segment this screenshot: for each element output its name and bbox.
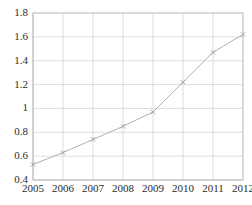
x-tick-label: 2005 [16, 183, 50, 194]
chart-axes [33, 13, 243, 180]
x-tick-label: 2011 [196, 183, 230, 194]
x-tick-label: 2007 [76, 183, 110, 194]
horizontal-gridlines [33, 13, 243, 180]
y-tick-label: 0.6 [0, 150, 28, 161]
line-chart: 1.81.61.41.210.80.60.4 20052006200720082… [0, 0, 252, 205]
y-tick-label: 1.2 [0, 79, 28, 90]
y-tick-label: 1.8 [0, 7, 28, 18]
x-tick-label: 2006 [46, 183, 80, 194]
x-tick-label: 2012 [226, 183, 252, 194]
y-tick-label: 1.4 [0, 55, 28, 66]
y-tick-label: 0.8 [0, 126, 28, 137]
chart-plot-area [0, 0, 252, 205]
x-tick-label: 2009 [136, 183, 170, 194]
x-tick-label: 2010 [166, 183, 200, 194]
vertical-gridlines [33, 13, 243, 180]
y-tick-label: 1 [0, 102, 28, 113]
y-tick-label: 1.6 [0, 31, 28, 42]
x-tick-label: 2008 [106, 183, 140, 194]
